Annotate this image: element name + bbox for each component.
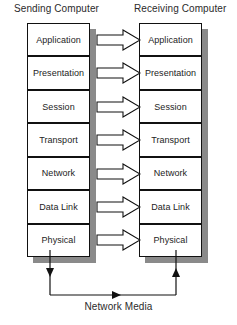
layer-box-network[interactable]: Network	[139, 157, 202, 190]
layer-label: Presentation	[33, 68, 84, 78]
layer-label: Data Link	[151, 202, 189, 212]
receiving-computer-stack: Application Presentation Session Transpo…	[139, 23, 202, 257]
layer-box-transport[interactable]: Transport	[27, 123, 90, 156]
layer-label: Physical	[42, 235, 76, 245]
layer-box-transport[interactable]: Transport	[139, 123, 202, 156]
peer-arrow-data-link-icon	[96, 196, 141, 218]
sending-layer-list: Application Presentation Session Transpo…	[27, 23, 90, 257]
layer-label: Application	[36, 35, 81, 45]
layer-box-data-link[interactable]: Data Link	[27, 190, 90, 223]
layer-box-presentation[interactable]: Presentation	[139, 56, 202, 89]
layer-label: Network	[154, 168, 187, 178]
peer-layer-arrows	[90, 23, 142, 257]
network-media-path	[0, 250, 237, 310]
layer-box-application[interactable]: Application	[139, 23, 202, 56]
layer-label: Network	[42, 168, 75, 178]
layer-box-presentation[interactable]: Presentation	[27, 56, 90, 89]
sending-computer-heading: Sending Computer	[14, 2, 99, 16]
layer-box-application[interactable]: Application	[27, 23, 90, 56]
layer-label: Data Link	[39, 202, 77, 212]
layer-label: Transport	[151, 135, 190, 145]
layer-label: Presentation	[145, 68, 196, 78]
layer-label: Session	[154, 102, 186, 112]
osi-communication-diagram: Sending Computer Receiving Computer Appl…	[0, 0, 237, 325]
peer-arrow-session-icon	[96, 96, 141, 118]
peer-arrow-application-icon	[96, 29, 141, 51]
peer-arrow-presentation-icon	[96, 62, 141, 84]
layer-box-session[interactable]: Session	[27, 90, 90, 123]
peer-arrow-transport-icon	[96, 129, 141, 151]
layer-label: Session	[42, 102, 74, 112]
layer-label: Application	[148, 35, 193, 45]
layer-label: Physical	[154, 235, 188, 245]
receiving-layer-list: Application Presentation Session Transpo…	[139, 23, 202, 257]
peer-arrow-physical-icon	[96, 229, 141, 251]
layer-label: Transport	[39, 135, 78, 145]
peer-arrow-network-icon	[96, 163, 141, 185]
layer-box-data-link[interactable]: Data Link	[139, 190, 202, 223]
layer-box-network[interactable]: Network	[27, 157, 90, 190]
receiving-computer-heading: Receiving Computer	[134, 2, 226, 16]
sending-computer-stack: Application Presentation Session Transpo…	[27, 23, 90, 257]
layer-box-session[interactable]: Session	[139, 90, 202, 123]
